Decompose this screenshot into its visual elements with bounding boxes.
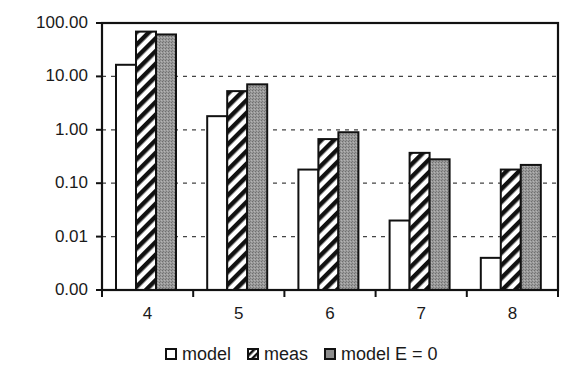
y-tick-label: 1.00 <box>8 121 88 139</box>
x-tick-label: 8 <box>492 305 532 323</box>
legend-swatch-white <box>165 348 177 360</box>
plot-area <box>0 0 586 388</box>
legend: model meas model E = 0 <box>165 343 454 365</box>
legend-label: model E = 0 <box>341 343 438 365</box>
legend-label: model <box>182 343 231 365</box>
bar-meas <box>501 170 521 290</box>
bar-model-e0 <box>247 84 267 290</box>
legend-swatch-hatched <box>247 348 259 360</box>
bar-model <box>390 221 410 290</box>
legend-label: meas <box>264 343 308 365</box>
legend-item-model: model <box>165 343 231 365</box>
bar-model-e0 <box>156 34 176 290</box>
legend-swatch-gray <box>324 348 336 360</box>
bar-model <box>481 258 501 290</box>
y-tick-label: 0.00 <box>8 281 88 299</box>
bar-model <box>116 65 136 290</box>
bar-chart: 0.000.010.101.0010.00100.00 45678 model … <box>0 0 586 388</box>
bars <box>116 32 541 290</box>
bar-meas <box>410 153 430 290</box>
legend-item-model-e0: model E = 0 <box>324 343 438 365</box>
legend-item-meas: meas <box>247 343 308 365</box>
x-tick-label: 5 <box>219 305 259 323</box>
bar-model <box>298 170 318 290</box>
x-tick-label: 6 <box>310 305 350 323</box>
bar-model-e0 <box>430 159 450 290</box>
x-tick-label: 4 <box>128 305 168 323</box>
x-tick-label: 7 <box>401 305 441 323</box>
bar-model <box>207 116 227 290</box>
bar-model-e0 <box>338 132 358 290</box>
bar-meas <box>227 91 247 290</box>
y-tick-label: 0.10 <box>8 174 88 192</box>
y-tick-label: 0.01 <box>8 228 88 246</box>
bar-meas <box>318 139 338 290</box>
y-tick-label: 100.00 <box>8 14 88 32</box>
bar-meas <box>136 32 156 290</box>
bar-model-e0 <box>521 165 541 290</box>
y-tick-label: 10.00 <box>8 67 88 85</box>
